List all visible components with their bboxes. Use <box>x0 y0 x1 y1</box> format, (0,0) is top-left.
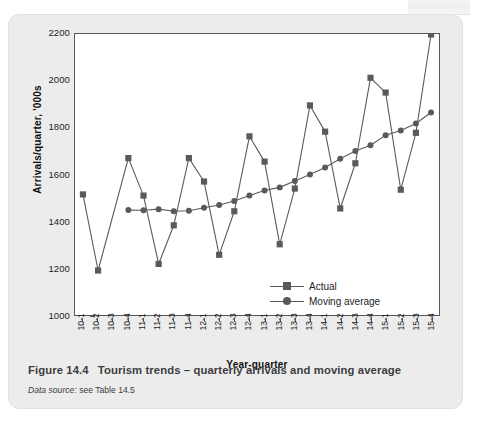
data-point-marker <box>201 205 207 211</box>
y-axis-tick-label: 2200 <box>36 28 70 37</box>
x-axis-tick-labels: 10-110-210-310-411-111-211-311-412-112-2… <box>74 318 440 358</box>
data-point-marker <box>428 34 434 38</box>
legend-label-moving-average: Moving average <box>309 296 380 307</box>
data-point-marker <box>383 89 389 95</box>
data-point-marker <box>413 130 419 136</box>
legend-label-actual: Actual <box>309 281 337 292</box>
figure-card: Arrivals/quarter, '000s 2200200018001600… <box>8 14 463 409</box>
data-point-marker <box>140 193 146 199</box>
x-axis-tick-label: 11-3 <box>167 313 177 347</box>
data-point-marker <box>156 261 162 267</box>
x-axis-tick-label: 15-4 <box>426 313 436 347</box>
data-point-marker <box>80 191 86 197</box>
data-point-marker <box>322 129 328 135</box>
plot-frame <box>74 33 440 316</box>
series-line-moving-average <box>128 112 431 211</box>
x-axis-tick-label: 11-1 <box>137 313 147 347</box>
data-point-marker <box>428 109 434 115</box>
x-axis-tick-label: 10-3 <box>106 313 116 347</box>
data-point-marker <box>186 208 192 214</box>
caption-figure-number: Figure 14.4 <box>28 364 89 376</box>
data-point-marker <box>383 132 389 138</box>
data-point-marker <box>398 187 404 193</box>
data-point-marker <box>277 241 283 247</box>
data-point-marker <box>201 178 207 184</box>
data-point-marker <box>125 207 131 213</box>
x-axis-tick-label: 14-4 <box>365 313 375 347</box>
x-axis-tick-label: 13-1 <box>259 313 269 347</box>
data-point-marker <box>352 160 358 166</box>
x-axis-tick-label: 15-1 <box>380 313 390 347</box>
data-point-marker <box>307 172 313 178</box>
y-axis-tick-label: 1000 <box>36 311 70 320</box>
legend-swatch-square-icon <box>270 280 304 292</box>
caption-main-line: Figure 14.4Tourism trends – quarterly ar… <box>28 364 448 376</box>
series-line-actual <box>83 34 431 270</box>
data-point-marker <box>277 184 283 190</box>
y-axis-tick-label: 1800 <box>36 122 70 131</box>
data-point-marker <box>292 178 298 184</box>
data-point-marker <box>352 148 358 154</box>
x-axis-tick-label: 10-2 <box>91 313 101 347</box>
data-point-marker <box>246 133 252 139</box>
x-axis-tick-label: 12-3 <box>228 313 238 347</box>
data-point-marker <box>141 207 147 213</box>
y-axis-tick-label: 1200 <box>36 264 70 273</box>
data-point-marker <box>261 159 267 165</box>
data-point-marker <box>307 102 313 108</box>
data-point-marker <box>367 75 373 81</box>
data-point-marker <box>368 142 374 148</box>
source-label: Data source: <box>28 385 77 395</box>
x-axis-tick-label: 14-2 <box>335 313 345 347</box>
data-point-marker <box>398 127 404 133</box>
source-value: see Table 14.5 <box>79 385 135 395</box>
caption-source-line: Data source: see Table 14.5 <box>28 385 448 395</box>
x-axis-tick-label: 15-3 <box>411 313 421 347</box>
x-axis-tick-label: 14-1 <box>319 313 329 347</box>
x-axis-tick-label: 11-2 <box>152 313 162 347</box>
scan-artifact-strip <box>408 0 470 15</box>
data-point-marker <box>246 193 252 199</box>
x-axis-tick-label: 12-1 <box>198 313 208 347</box>
data-point-marker <box>216 202 222 208</box>
x-axis-tick-label: 14-3 <box>350 313 360 347</box>
caption-title: Tourism trends – quarterly arrivals and … <box>98 364 401 376</box>
y-axis-tick-label: 1600 <box>36 170 70 179</box>
x-axis-tick-label: 10-4 <box>122 313 132 347</box>
y-axis-tick-label: 1400 <box>36 217 70 226</box>
x-axis-tick-label: 15-2 <box>396 313 406 347</box>
legend-entry-actual: Actual <box>270 279 420 293</box>
data-point-marker <box>171 208 177 214</box>
chart-legend: Actual Moving average <box>270 279 420 309</box>
data-point-marker <box>186 155 192 161</box>
legend-swatch-circle-icon <box>270 295 304 307</box>
x-axis-tick-label: 10-1 <box>76 313 86 347</box>
data-point-marker <box>231 198 237 204</box>
x-axis-tick-label: 12-4 <box>243 313 253 347</box>
x-axis-tick-label: 11-4 <box>183 313 193 347</box>
plot-svg <box>75 34 439 315</box>
data-point-marker <box>262 187 268 193</box>
data-point-marker <box>292 185 298 191</box>
data-point-marker <box>216 252 222 258</box>
data-point-marker <box>171 222 177 228</box>
x-axis-tick-label: 13-3 <box>289 313 299 347</box>
data-point-marker <box>156 206 162 212</box>
data-point-marker <box>337 156 343 162</box>
x-axis-tick-label: 12-2 <box>213 313 223 347</box>
data-point-marker <box>337 205 343 211</box>
y-axis-tick-labels: 2200200018001600140012001000 <box>28 14 70 359</box>
data-point-marker <box>322 164 328 170</box>
figure-caption: Figure 14.4Tourism trends – quarterly ar… <box>28 364 448 395</box>
chart-area: Arrivals/quarter, '000s 2200200018001600… <box>8 14 463 359</box>
data-point-marker <box>125 155 131 161</box>
x-axis-tick-label: 13-2 <box>274 313 284 347</box>
legend-entry-moving-average: Moving average <box>270 294 420 308</box>
data-point-marker <box>95 267 101 273</box>
x-axis-tick-label: 13-4 <box>304 313 314 347</box>
data-point-marker <box>231 208 237 214</box>
y-axis-tick-label: 2000 <box>36 75 70 84</box>
data-point-marker <box>413 120 419 126</box>
